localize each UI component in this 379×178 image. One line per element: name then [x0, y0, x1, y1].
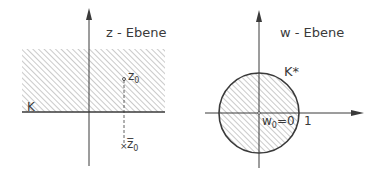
- arrow-right-icon: [351, 110, 364, 116]
- arrow-up-icon: [86, 8, 92, 20]
- center-label-w0: w0=0: [262, 114, 295, 130]
- point-subscript: 0: [134, 76, 139, 85]
- mirror-label-z0-bar: z̅0: [127, 137, 138, 153]
- w-plane-label: w - Ebene: [280, 25, 344, 40]
- upper-half-plane-hatch: [22, 49, 165, 112]
- origin-point: [258, 112, 261, 115]
- arrow-up-icon: [256, 10, 262, 22]
- mirror-subscript: 0: [133, 144, 138, 153]
- center-label-w: w: [262, 114, 272, 128]
- boundary-label-K-star: K*: [284, 64, 299, 79]
- boundary-label-K: K: [27, 100, 35, 114]
- point-label-z0: z0: [128, 69, 139, 85]
- center-value: =0: [277, 114, 295, 128]
- z-plane-label: z - Ebene: [106, 25, 166, 40]
- unit-label: 1: [304, 114, 312, 128]
